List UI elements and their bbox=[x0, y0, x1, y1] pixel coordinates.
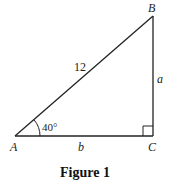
right-angle-marker bbox=[143, 126, 153, 136]
vertex-label-b: B bbox=[148, 1, 156, 15]
vertex-label-c: C bbox=[148, 140, 157, 154]
right-triangle-diagram: B A C 12 a b 40° Figure 1 bbox=[0, 0, 171, 183]
angle-arc-a bbox=[34, 120, 40, 136]
vertex-label-a: A bbox=[9, 140, 18, 154]
side-a-label: a bbox=[157, 72, 163, 86]
hypotenuse-length-label: 12 bbox=[74, 60, 86, 74]
side-ab-hypotenuse bbox=[15, 16, 153, 136]
angle-a-label: 40° bbox=[42, 121, 57, 133]
figure-caption: Figure 1 bbox=[60, 165, 110, 180]
side-b-label: b bbox=[78, 140, 84, 154]
